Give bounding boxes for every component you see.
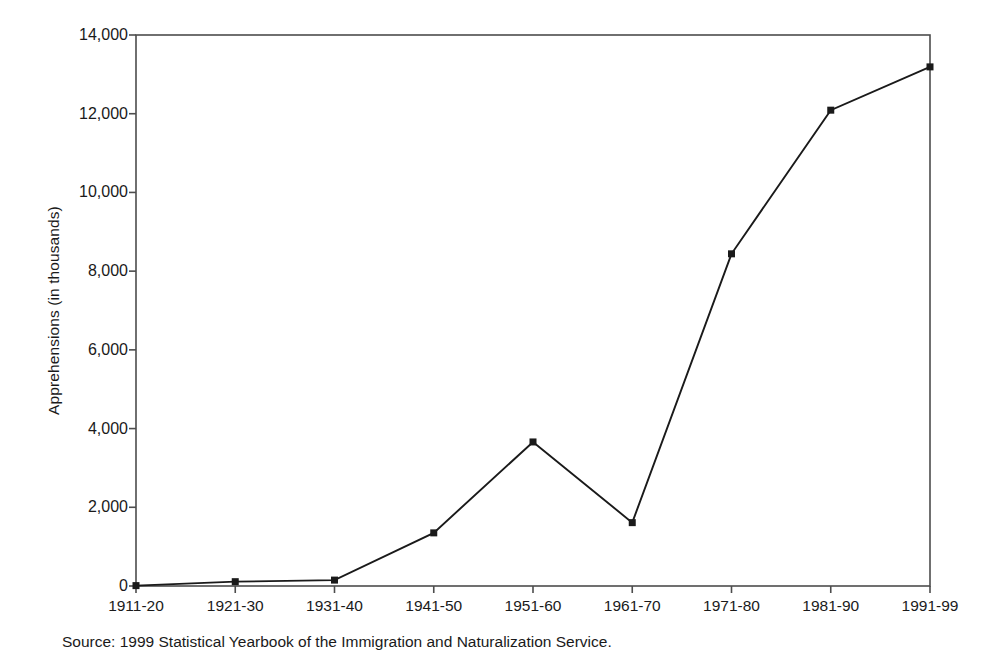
data-line-series: [136, 67, 930, 586]
data-point-marker: [133, 582, 140, 589]
data-point-marker: [629, 519, 636, 526]
data-point-marker: [530, 438, 537, 445]
plot-area: [0, 0, 990, 662]
source-note: Source: 1999 Statistical Yearbook of the…: [62, 632, 612, 652]
line-chart-figure: Apprehensions (in thousands) 02,0004,000…: [0, 0, 990, 662]
data-point-markers: [133, 63, 934, 589]
x-axis-ticks: [136, 586, 930, 593]
data-point-marker: [927, 63, 934, 70]
y-axis-ticks: [129, 35, 136, 586]
x-axis-tick-label: 1991-99: [870, 596, 990, 616]
data-point-marker: [331, 577, 338, 584]
data-point-marker: [728, 250, 735, 257]
data-point-marker: [232, 578, 239, 585]
axis-frame: [136, 35, 930, 586]
data-point-marker: [430, 529, 437, 536]
x-axis-tick-labels: 1911-201921-301931-401941-501951-601961-…: [136, 596, 930, 620]
data-point-marker: [827, 107, 834, 114]
